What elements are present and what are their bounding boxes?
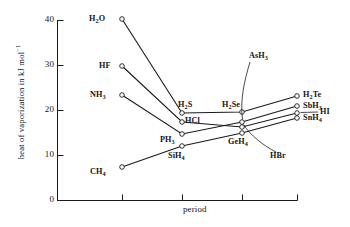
point-label-geh4: GeH4: [228, 138, 248, 146]
point-label-h2se: H2Se: [222, 101, 240, 109]
y-tick-label-10: 10: [32, 150, 54, 159]
point-label-snh4: SnH4: [303, 114, 322, 122]
point-label-hbr: HBr: [270, 152, 286, 160]
x-axis-title: period: [183, 205, 207, 214]
y-tick-label-40: 40: [32, 15, 54, 24]
point-label-sih4: SiH4: [168, 152, 185, 160]
y-axis-title: heat of vaporization in kJ mol−1: [10, 22, 24, 182]
series-line-group-15: [122, 95, 297, 134]
y-axis-ticks: [58, 21, 64, 156]
series-line-group-16: [122, 19, 297, 113]
marker-geh4: [240, 131, 245, 136]
y-axis-title-text: heat of vaporization in kJ mol−1: [16, 45, 26, 159]
marker-ph3: [180, 132, 185, 137]
series-line-group-17: [122, 66, 297, 127]
marker-snh4: [295, 116, 300, 121]
y-tick-label-30: 30: [32, 60, 54, 69]
marker-h2te: [295, 94, 300, 99]
marker-sbh3: [295, 104, 300, 109]
marker-ch4: [120, 165, 125, 170]
marker-hi: [295, 111, 300, 116]
marker-hcl: [180, 120, 185, 125]
point-label-nh3: NH3: [90, 91, 106, 99]
point-label-hf: HF: [99, 62, 111, 70]
y-tick-label-20: 20: [32, 105, 54, 114]
point-label-ph3: PH3: [160, 136, 175, 144]
series-markers: [120, 17, 300, 170]
point-label-hcl: HCl: [185, 117, 200, 125]
y-axis-title-main: heat of vaporization in kJ mol: [16, 52, 26, 159]
point-label-ash3: AsH3: [249, 52, 268, 60]
point-label-h2te: H2Te: [303, 91, 321, 99]
series-lines: [122, 19, 297, 167]
marker-nh3: [120, 93, 125, 98]
y-axis-title-exponent: −1: [14, 45, 21, 52]
marker-sih4: [180, 144, 185, 149]
point-label-h2o: H2O: [89, 15, 105, 23]
marker-hf: [120, 64, 125, 69]
x-axis-ticks: [123, 195, 298, 201]
point-label-h2s: H2S: [178, 101, 192, 109]
chart-figure: 40 30 20 10 0 heat of vaporization in kJ…: [0, 0, 350, 227]
y-tick-label-0: 0: [32, 195, 54, 204]
marker-h2s: [180, 111, 185, 116]
marker-ash3: [240, 120, 245, 125]
point-label-ch4: CH4: [90, 168, 106, 176]
marker-h2o: [120, 17, 125, 22]
